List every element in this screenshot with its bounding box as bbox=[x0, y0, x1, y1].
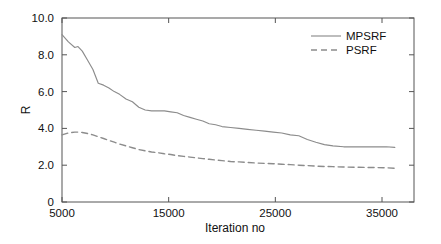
legend-label-psrf: PSRF bbox=[346, 44, 377, 56]
x-tick-label: 35000 bbox=[366, 207, 398, 219]
data-series-group bbox=[62, 35, 395, 169]
y-axis-tick-labels: 02.04.06.08.010.0 bbox=[32, 12, 54, 208]
line-chart: 02.04.06.08.010.0 5000150002500035000 It… bbox=[0, 0, 441, 244]
x-tick-label: 5000 bbox=[49, 207, 75, 219]
y-tick-label: 6.0 bbox=[38, 86, 54, 98]
x-axis-title: Iteration no bbox=[205, 221, 265, 235]
x-tick-label: 25000 bbox=[259, 207, 291, 219]
y-tick-label: 2.0 bbox=[38, 159, 54, 171]
y-axis-title: R bbox=[19, 105, 33, 114]
legend-label-mpsrf: MPSRF bbox=[346, 30, 386, 42]
x-axis-tick-labels: 5000150002500035000 bbox=[49, 207, 398, 219]
series-line-mpsrf bbox=[62, 35, 395, 148]
y-tick-label: 4.0 bbox=[38, 122, 54, 134]
x-tick-label: 15000 bbox=[153, 207, 185, 219]
y-tick-label: 8.0 bbox=[38, 49, 54, 61]
x-axis-ticks bbox=[62, 18, 382, 202]
figure-container: 02.04.06.08.010.0 5000150002500035000 It… bbox=[0, 0, 441, 244]
y-tick-label: 10.0 bbox=[32, 12, 54, 24]
series-line-psrf bbox=[62, 132, 395, 168]
chart-legend: MPSRF PSRF bbox=[311, 30, 386, 56]
